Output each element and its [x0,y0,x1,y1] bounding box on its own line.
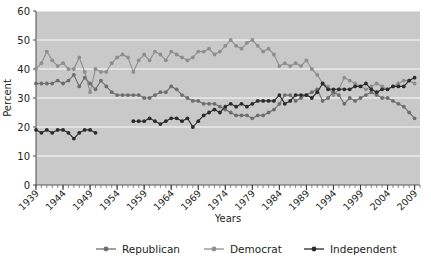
data-point-independent-2003 [380,87,384,91]
data-point-republican-2003 [380,96,384,100]
x-tick-label-1974: 1974 [205,188,230,213]
data-point-republican-1999 [359,96,363,100]
y-tick-label-20: 20 [17,122,30,133]
data-point-republican-1943 [56,79,60,83]
data-point-independent-1969 [196,119,200,123]
data-point-democrat-1963 [164,58,168,62]
data-point-independent-1948 [83,128,87,132]
data-point-democrat-1989 [305,58,309,62]
x-tick-label-1989: 1989 [286,188,311,213]
data-point-democrat-1966 [180,56,184,60]
data-point-democrat-1955 [121,53,125,57]
data-point-independent-1981 [261,99,265,103]
y-tick-label-60: 60 [17,6,30,17]
data-point-independent-2002 [375,90,379,94]
data-point-republican-1961 [153,93,157,97]
data-point-democrat-1957 [131,70,135,74]
x-tick-label-1999: 1999 [341,188,366,213]
x-tick-label-1969: 1969 [178,188,203,213]
data-point-republican-2000 [364,93,368,97]
data-point-republican-1990 [310,90,314,94]
data-point-republican-1998 [353,99,357,103]
data-point-republican-1941 [45,82,49,86]
data-point-republican-1984 [277,102,281,106]
data-point-democrat-1973 [218,50,222,54]
y-axis-title: Percent [2,79,13,117]
data-point-democrat-1954 [115,56,119,60]
data-point-independent-1991 [315,90,319,94]
data-point-independent-1967 [186,116,190,120]
data-point-independent-1968 [191,125,195,129]
data-point-republican-1953 [110,90,114,94]
data-point-independent-1997 [348,87,352,91]
data-point-independent-1939 [34,128,38,132]
data-point-republican-2006 [396,102,400,106]
data-point-republican-1978 [245,114,249,118]
data-point-republican-1950 [94,87,98,91]
data-point-republican-1973 [218,105,222,109]
data-point-independent-2001 [369,87,373,91]
data-point-republican-2004 [386,96,390,100]
data-point-republican-1958 [137,93,141,97]
data-point-independent-1949 [88,128,92,132]
data-point-independent-1982 [267,99,271,103]
x-tick-label-1984: 1984 [259,188,284,213]
data-point-republican-1995 [337,93,341,97]
data-point-democrat-1985 [283,61,287,65]
data-point-republican-1971 [207,102,211,106]
y-tick-label-0: 0 [24,180,30,191]
data-point-democrat-1991 [315,73,319,77]
data-point-democrat-2002 [375,82,379,86]
data-point-republican-1960 [148,96,152,100]
data-point-independent-2006 [396,85,400,89]
x-tick-label-1954: 1954 [97,188,122,213]
data-point-democrat-1967 [186,58,190,62]
y-axis: 0102030405060 [17,6,36,191]
data-point-independent-1990 [310,96,314,100]
data-point-republican-1946 [72,73,76,77]
data-point-democrat-1979 [250,38,254,42]
data-point-democrat-1939 [34,67,38,71]
data-point-democrat-1964 [169,50,173,54]
data-point-democrat-1987 [294,61,298,65]
data-point-independent-1961 [153,119,157,123]
data-point-republican-1979 [250,116,254,120]
data-point-democrat-1947 [77,56,81,60]
data-point-democrat-1977 [240,47,244,51]
data-point-independent-2005 [391,85,395,89]
x-tick-label-1964: 1964 [151,188,176,213]
x-tick-label-1959: 1959 [124,188,149,213]
data-point-democrat-1983 [272,53,276,57]
data-point-democrat-1988 [299,64,303,68]
data-point-independent-1989 [305,93,309,97]
data-point-republican-1976 [234,114,238,118]
data-point-independent-1976 [234,105,238,109]
data-point-democrat-1970 [202,50,206,54]
data-point-democrat-1941 [45,50,49,54]
data-point-republican-1955 [121,93,125,97]
data-point-independent-1959 [142,119,146,123]
data-point-independent-1988 [299,93,303,97]
data-point-democrat-1972 [213,53,217,57]
data-point-independent-1944 [61,128,65,132]
data-point-democrat-1982 [267,47,271,51]
data-point-independent-1945 [67,131,71,135]
x-tick-label-1994: 1994 [313,188,338,213]
data-point-republican-2007 [402,105,406,109]
data-point-republican-1942 [50,82,54,86]
data-point-democrat-1974 [223,44,227,48]
data-point-democrat-1951 [99,70,103,74]
data-point-republican-1966 [180,93,184,97]
data-point-republican-1983 [272,108,276,112]
data-point-republican-1982 [267,111,271,115]
data-point-republican-1972 [213,102,217,106]
data-point-democrat-1942 [50,58,54,62]
data-point-independent-1979 [250,102,254,106]
data-point-republican-1944 [61,82,65,86]
data-point-democrat-1997 [348,79,352,83]
data-point-independent-1980 [256,99,260,103]
data-point-democrat-1969 [196,50,200,54]
x-tick-label-2009: 2009 [395,188,420,213]
data-point-independent-2007 [402,85,406,89]
data-point-republican-1956 [126,93,130,97]
